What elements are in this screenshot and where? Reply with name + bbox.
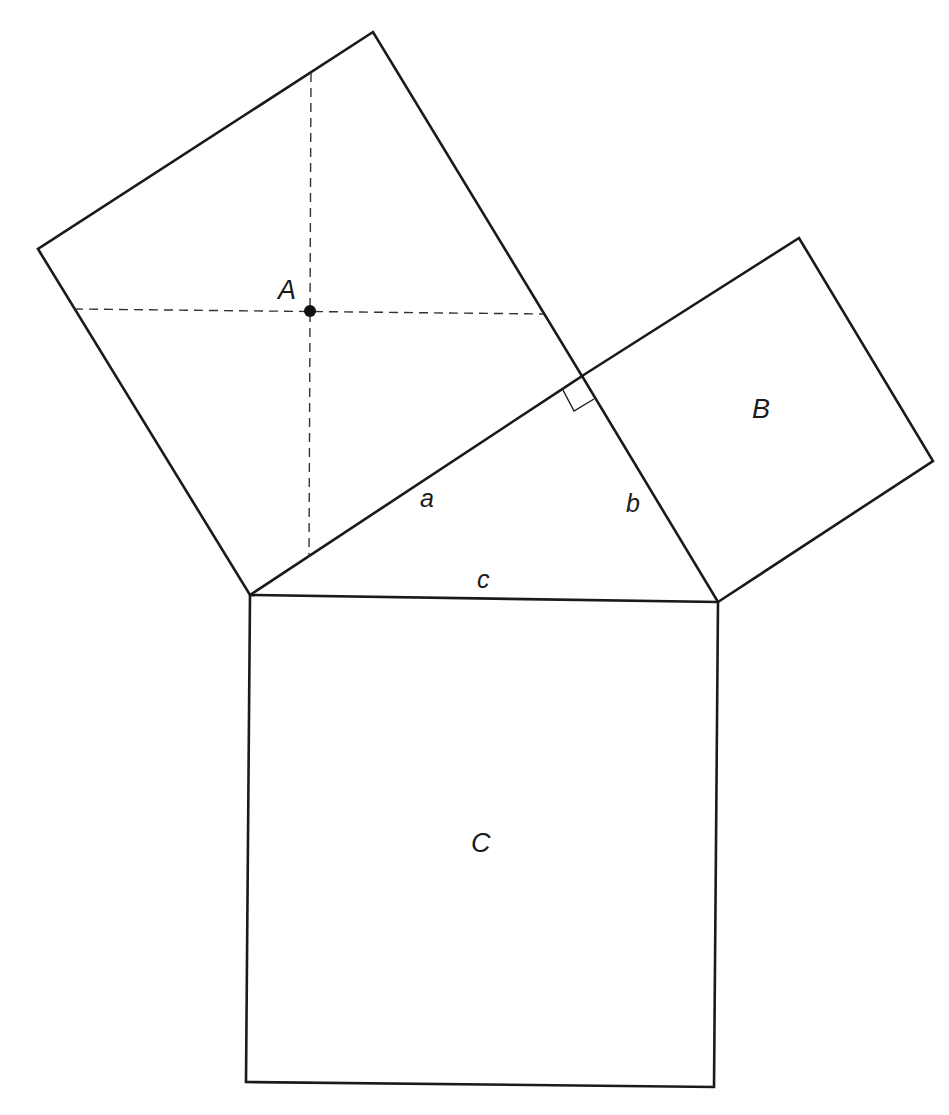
label-square-c: C [471,828,491,858]
label-square-a: A [276,275,296,305]
label-side-c: c [477,565,490,593]
label-side-b: b [626,489,640,517]
label-square-b: B [752,394,770,424]
pythagorean-diagram: A B C a b c [0,0,949,1115]
center-point-a [304,305,316,317]
right-angle-marker [563,390,594,411]
label-side-a: a [420,484,434,512]
